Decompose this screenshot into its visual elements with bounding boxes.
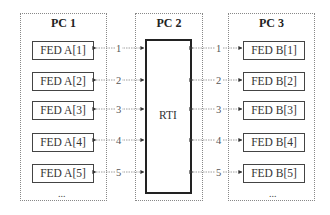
link-label-left-4: 4 xyxy=(116,135,122,146)
link-label-right-4: 4 xyxy=(216,135,222,146)
link-label-right-5: 5 xyxy=(216,167,221,178)
link-label-left-1: 1 xyxy=(116,43,121,54)
link-label-left-2: 2 xyxy=(116,75,121,86)
link-label-right-3: 3 xyxy=(216,104,221,115)
connectors: 1 2 3 4 5 1 2 3 4 5 xyxy=(0,0,330,215)
link-label-left-5: 5 xyxy=(116,167,121,178)
link-label-right-1: 1 xyxy=(216,43,221,54)
link-label-left-3: 3 xyxy=(116,104,121,115)
link-label-right-2: 2 xyxy=(216,75,221,86)
